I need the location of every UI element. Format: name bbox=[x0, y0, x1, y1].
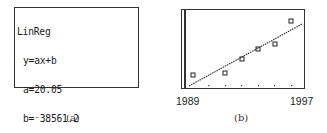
point-marker-square-icon bbox=[289, 19, 293, 23]
data-points bbox=[191, 19, 293, 77]
x-min-label: 1989 bbox=[176, 95, 199, 107]
point-marker-square-icon bbox=[223, 71, 227, 75]
scatter-plot-graphics bbox=[0, 0, 327, 133]
point-marker-square-icon bbox=[273, 42, 277, 46]
x-axis-ticks bbox=[208, 85, 292, 86]
point-marker-square-icon bbox=[191, 73, 195, 77]
x-max-label: 1997 bbox=[290, 95, 313, 107]
regression-line bbox=[189, 24, 302, 86]
caption-b: (b) bbox=[234, 112, 248, 123]
